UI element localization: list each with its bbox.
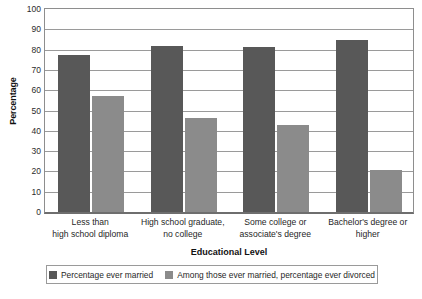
bar-chart-figure: Percentage 1009080706050403020100 Less t… xyxy=(0,0,422,299)
legend-item[interactable]: Among those ever married, percentage eve… xyxy=(165,270,375,280)
bar xyxy=(243,47,275,212)
bar-group xyxy=(323,9,416,212)
y-tick-label: 20 xyxy=(32,166,41,176)
y-tick-label: 0 xyxy=(36,207,41,217)
legend-item[interactable]: Percentage ever married xyxy=(49,270,153,280)
bar xyxy=(336,40,368,212)
bar-group xyxy=(138,9,231,212)
y-tick-label: 50 xyxy=(32,106,41,116)
y-tick-label: 10 xyxy=(32,187,41,197)
bar xyxy=(185,118,217,212)
legend-label: Percentage ever married xyxy=(61,270,153,280)
y-tick-label: 60 xyxy=(32,85,41,95)
bar xyxy=(151,46,183,212)
y-tick-label: 70 xyxy=(32,65,41,75)
y-tick-label: 40 xyxy=(32,126,41,136)
bar-group xyxy=(45,9,138,212)
bar-group xyxy=(230,9,323,212)
y-tick-label: 30 xyxy=(32,146,41,156)
legend-label: Among those ever married, percentage eve… xyxy=(177,270,375,280)
x-axis-title: Educational Level xyxy=(44,247,414,257)
y-tick-label: 80 xyxy=(32,45,41,55)
y-tick-label: 100 xyxy=(27,4,41,14)
bar xyxy=(92,96,124,212)
bar xyxy=(277,125,309,212)
y-tick-label: 90 xyxy=(32,24,41,34)
chart-legend: Percentage ever marriedAmong those ever … xyxy=(46,265,378,284)
x-axis-tick-labels: Less thanhigh school diplomaHigh school … xyxy=(44,217,414,247)
x-tick-label: Bachelor's degree orhigher xyxy=(314,217,422,240)
bar xyxy=(58,55,90,212)
x-tick-label-line: Bachelor's degree or xyxy=(314,217,422,229)
legend-swatch-icon xyxy=(165,271,173,279)
plot-area: 1009080706050403020100 xyxy=(44,8,414,214)
x-tick-label-line: higher xyxy=(314,229,422,241)
y-axis-title: Percentage xyxy=(8,61,18,141)
bars-layer xyxy=(45,9,413,212)
bar xyxy=(370,170,402,212)
legend-swatch-icon xyxy=(49,271,57,279)
